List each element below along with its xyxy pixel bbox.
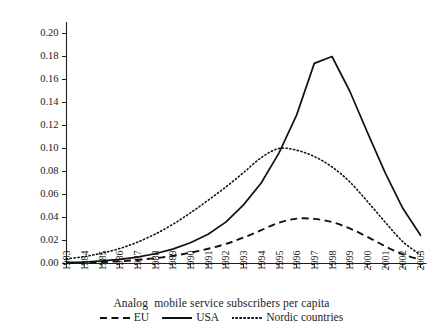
y-axis-tick-labels: 0.000.020.040.060.080.100.120.140.160.18…: [40, 27, 59, 268]
y-axis-tick-label: 0.08: [40, 165, 58, 176]
chart-figure: 0.000.020.040.060.080.100.120.140.160.18…: [0, 0, 443, 334]
y-axis-tick-label: 0.06: [40, 188, 58, 199]
legend-label-usa: USA: [196, 311, 219, 324]
x-axis-tick-label: 2001: [380, 251, 391, 271]
y-axis-tick-label: 0.00: [40, 257, 58, 268]
x-axis-tick-label: 1999: [344, 251, 355, 271]
x-axis-tick-label: 1984: [79, 251, 90, 271]
y-axis-tick-label: 0.04: [40, 211, 59, 222]
x-axis-tick-label: 1996: [291, 251, 302, 271]
x-axis-tick-label: 1992: [220, 251, 231, 271]
legend-swatch-dotted-icon: [232, 314, 262, 322]
legend-item-usa: USA: [162, 311, 219, 324]
y-axis-tick-label: 0.20: [40, 27, 58, 38]
legend-label-eu: EU: [134, 311, 149, 324]
data-series-lines: [67, 57, 421, 263]
legend-label-nordic-countries: Nordic countries: [266, 311, 343, 324]
x-axis-tick-label: 1989: [167, 251, 178, 271]
x-axis-tick-label: 2003: [415, 251, 426, 271]
y-axis-tick-label: 0.02: [40, 234, 58, 245]
x-axis-tick-label: 1997: [309, 251, 320, 271]
x-axis-tick-label: 1994: [256, 251, 267, 271]
x-axis-tick-label: 1991: [203, 251, 214, 271]
chart-legend: EU USA Nordic countries: [0, 311, 443, 324]
line-chart-canvas: 0.000.020.040.060.080.100.120.140.160.18…: [0, 0, 443, 334]
legend-swatch-dashed-icon: [100, 314, 130, 322]
series-line-usa: [67, 57, 421, 263]
x-axis-tick-label: 1998: [327, 251, 338, 271]
legend-swatch-solid-icon: [162, 314, 192, 322]
x-axis-tick-label: 1993: [238, 251, 249, 271]
y-axis-tick-label: 0.16: [40, 73, 58, 84]
y-axis-tick-label: 0.14: [40, 96, 59, 107]
legend-item-nordic-countries: Nordic countries: [232, 311, 343, 324]
x-axis-tick-label: 1983: [61, 251, 72, 271]
chart-title: Analog mobile service subscribers per ca…: [0, 296, 443, 310]
y-axis-tick-label: 0.12: [40, 119, 58, 130]
chart-caption: Analog mobile service subscribers per ca…: [0, 296, 443, 324]
y-axis-tick-label: 0.10: [40, 142, 58, 153]
legend-item-eu: EU: [100, 311, 149, 324]
x-axis-tick-label: 1995: [274, 251, 285, 271]
series-line-nordic-countries: [67, 148, 421, 259]
y-axis-tick-label: 0.18: [40, 50, 58, 61]
x-axis-tick-label: 2000: [362, 251, 373, 271]
chart-axes: [62, 22, 427, 268]
